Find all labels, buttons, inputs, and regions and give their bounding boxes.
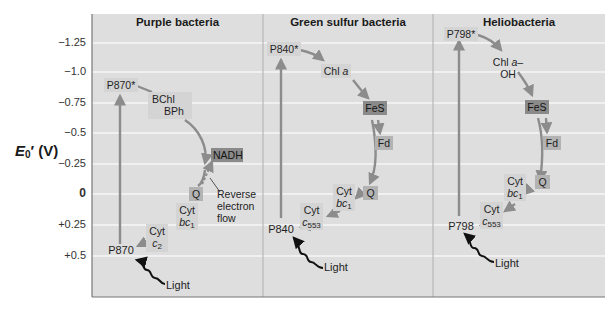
purple-cyt-c2-top: Cyt xyxy=(148,225,166,237)
green-cyt-c553-top: Cyt xyxy=(302,204,321,216)
helio-chl-text: Chl xyxy=(493,56,512,68)
green-cyt-c553: Cyt c553 xyxy=(300,203,323,230)
helio-q: Q xyxy=(535,175,550,189)
purple-nadh: NADH xyxy=(211,148,243,162)
green-chl-a: Chl a xyxy=(321,64,351,78)
green-cyt-c553-bottom: c553 xyxy=(302,216,321,232)
helio-light-label: Light xyxy=(495,257,519,269)
y-axis-title: E0′ (V) xyxy=(15,142,58,160)
reverse-note-line-1: Reverse xyxy=(217,188,256,200)
y-tick-pos-0.5: +0.5 xyxy=(46,249,86,261)
reverse-note-line-2: electron xyxy=(217,200,256,212)
y-tick-neg-1.25: −1.25 xyxy=(46,36,86,48)
y-axis-title-symbol: E xyxy=(15,142,25,159)
panel-title-purple: Purple bacteria xyxy=(92,16,263,28)
helio-cyt-bc1-top: Cyt xyxy=(506,175,524,187)
purple-c2-sub: 2 xyxy=(157,242,161,251)
purple-bchl-label: BChl xyxy=(152,93,190,105)
y-tick-pos-0.25: +0.25 xyxy=(46,218,86,230)
green-light-label: Light xyxy=(324,261,348,273)
green-bc-sub: 1 xyxy=(347,202,351,211)
green-q: Q xyxy=(363,186,378,200)
purple-cyt-c2: Cyt c2 xyxy=(146,224,168,252)
purple-cyt-bc1-bottom: bc1 xyxy=(178,216,196,232)
helio-fes: FeS xyxy=(525,100,549,114)
purple-bc-italic: bc xyxy=(179,216,190,228)
helio-c553-sub: 553 xyxy=(487,220,500,229)
y-tick-neg-0.5: −0.5 xyxy=(46,126,86,138)
green-chl-text: Chl xyxy=(324,65,343,77)
panel-title-green: Green sulfur bacteria xyxy=(263,16,433,28)
reverse-electron-flow-note: Reverse electron flow xyxy=(217,188,256,224)
purple-bchl-bph: BChl BPh xyxy=(148,92,192,119)
helio-cyt-bc1: Cyt bc1 xyxy=(504,174,526,201)
helio-bc-italic: bc xyxy=(507,187,518,199)
green-c553-sub: 553 xyxy=(307,221,320,230)
helio-cyt-bc1-bottom: bc1 xyxy=(506,187,524,203)
green-cyt-bc1-bottom: bc1 xyxy=(335,197,353,213)
green-chl-italic: a xyxy=(342,65,348,77)
y-axis-title-unit: ′ (V) xyxy=(31,142,59,159)
diagram-stage: −1.25 −1.0 −0.75 −0.5 −0.25 0 +0.25 +0.5… xyxy=(0,0,615,314)
helio-bc-sub: 1 xyxy=(518,192,522,201)
purple-q: Q xyxy=(189,187,203,201)
helio-cyt-c553: Cyt c553 xyxy=(480,202,503,229)
helio-fd: Fd xyxy=(543,136,561,150)
y-tick-neg-1.0: −1.0 xyxy=(46,65,86,77)
green-p840-star: P840* xyxy=(267,42,301,56)
helio-cyt-c553-bottom: c553 xyxy=(482,215,501,231)
green-cyt-bc1-top: Cyt xyxy=(335,185,353,197)
purple-bph-label: BPh xyxy=(152,105,190,117)
purple-light-label: Light xyxy=(166,279,190,291)
helio-p798-star: P798* xyxy=(444,27,478,41)
green-fd: Fd xyxy=(375,136,393,150)
purple-bc-sub: 1 xyxy=(190,221,194,230)
green-fes: FeS xyxy=(363,101,387,115)
diagram-canvas xyxy=(0,0,615,314)
purple-cyt-bc1-top: Cyt xyxy=(178,204,196,216)
y-tick-neg-0.75: −0.75 xyxy=(46,96,86,108)
purple-cyt-c2-bottom: c2 xyxy=(148,237,166,253)
helio-cyt-c553-top: Cyt xyxy=(482,203,501,215)
purple-p870: P870 xyxy=(104,243,138,257)
green-p840: P840 xyxy=(266,222,296,236)
purple-p870-star: P870* xyxy=(104,78,138,92)
y-tick-zero: 0 xyxy=(46,186,86,200)
purple-cyt-bc1: Cyt bc1 xyxy=(176,203,198,230)
green-cyt-bc1: Cyt bc1 xyxy=(333,184,355,211)
helio-chl-a-oh: Chl a–OH xyxy=(484,55,532,81)
green-bc-italic: bc xyxy=(336,197,347,209)
reverse-note-line-3: flow xyxy=(217,212,256,224)
helio-p798: P798 xyxy=(446,219,476,233)
